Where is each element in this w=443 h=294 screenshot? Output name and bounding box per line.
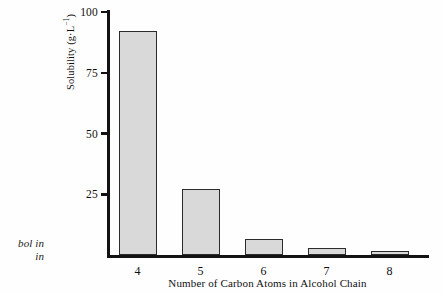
y-tick-50: 50	[101, 132, 108, 135]
y-tick-75: 75	[101, 72, 108, 75]
bar-5	[182, 189, 220, 255]
bar-4	[119, 31, 157, 255]
bar-8	[371, 251, 409, 255]
figure-canvas: bol in in 100755025 45678 Number of Carb…	[0, 0, 443, 294]
y-axis-title: Solubility (g·L−1)	[62, 0, 76, 90]
y-axis-title-exponent: −1	[62, 18, 71, 26]
y-tick-100: 100	[101, 11, 108, 14]
y-tick-label-50: 50	[86, 127, 98, 139]
y-tick-label-25: 25	[86, 188, 98, 200]
y-tick-label-75: 75	[86, 67, 98, 79]
bar-6	[245, 239, 283, 255]
y-tick-25: 25	[101, 193, 108, 196]
plot-area: 100755025 45678	[110, 12, 425, 255]
y-axis-title-text: Solubility (g·L	[65, 26, 76, 90]
margin-caption-line-1: bol in	[0, 237, 44, 250]
margin-caption: bol in in	[0, 237, 46, 262]
margin-caption-line-2: in	[0, 250, 44, 263]
y-axis-title-tail: )	[65, 14, 76, 18]
x-axis-line	[107, 255, 429, 258]
y-tick-label-100: 100	[80, 6, 98, 18]
bar-7	[308, 248, 346, 255]
x-axis-title: Number of Carbon Atoms in Alcohol Chain	[110, 277, 425, 289]
